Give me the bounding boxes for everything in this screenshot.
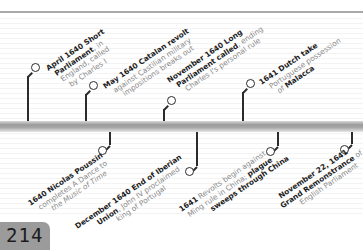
page-number-box: 214 (0, 222, 50, 250)
stem (196, 126, 198, 166)
event-marker-icon (31, 63, 40, 72)
timeline-bar (0, 121, 363, 132)
stem (242, 92, 244, 124)
stem (27, 76, 29, 124)
stem (85, 94, 87, 124)
top-rule (0, 11, 363, 13)
page-number: 214 (6, 224, 43, 246)
event-marker-icon (89, 81, 98, 90)
event-marker-icon (167, 96, 176, 105)
event-marker-icon (246, 79, 255, 88)
